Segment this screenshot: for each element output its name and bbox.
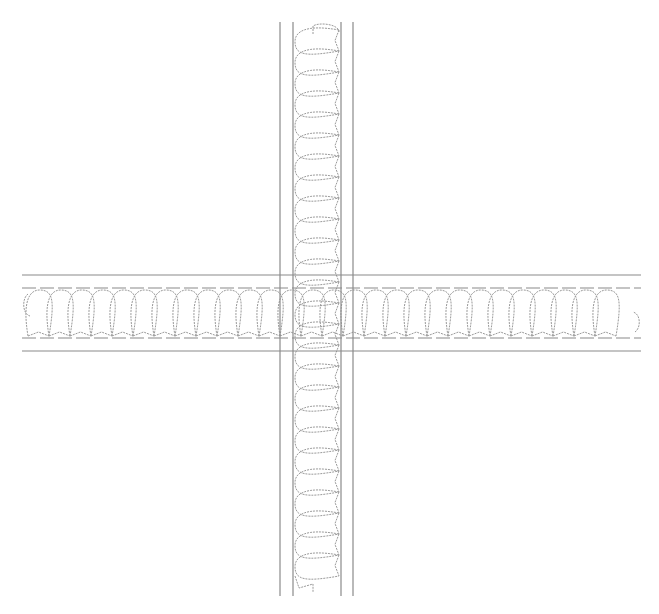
vertical-insulation-batt — [295, 28, 339, 579]
wall-intersection-drawing — [0, 0, 659, 614]
vertical-wall-insulation — [295, 24, 339, 592]
horizontal-wall-lines — [22, 275, 641, 351]
vertical-wall-lines — [280, 22, 353, 596]
horizontal-wall-insulation — [24, 290, 640, 336]
horizontal-insulation-batt — [26, 290, 619, 336]
insulation-end-hook-right — [633, 312, 639, 332]
drawing-canvas — [0, 0, 659, 614]
